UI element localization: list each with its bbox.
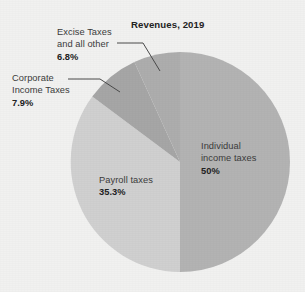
slice-label-excise-line2: and all other bbox=[57, 38, 112, 50]
pie-chart-figure: Revenues, 2019 Excise Taxes and all othe… bbox=[0, 0, 305, 292]
slice-label-individual-line2: income taxes bbox=[201, 152, 256, 164]
slice-label-corporate-line2: Income Taxes bbox=[12, 84, 70, 96]
slice-label-excise: Excise Taxes and all other 6.8% bbox=[57, 26, 112, 63]
slice-label-excise-line1: Excise Taxes bbox=[57, 26, 112, 38]
slice-label-payroll: Payroll taxes 35.3% bbox=[99, 174, 153, 199]
slice-label-corporate: Corporate Income Taxes 7.9% bbox=[12, 72, 70, 109]
slice-value-excise: 6.8% bbox=[57, 51, 112, 63]
slice-label-individual-line1: Individual bbox=[201, 140, 256, 152]
slice-label-payroll-line1: Payroll taxes bbox=[99, 174, 153, 186]
chart-title: Revenues, 2019 bbox=[131, 19, 204, 30]
slice-value-individual: 50% bbox=[201, 165, 256, 177]
slice-value-payroll: 35.3% bbox=[99, 186, 153, 198]
pie-chart-svg bbox=[0, 0, 305, 292]
slice-label-individual: Individual income taxes 50% bbox=[201, 140, 256, 177]
slice-value-corporate: 7.9% bbox=[12, 97, 70, 109]
slice-label-corporate-line1: Corporate bbox=[12, 72, 70, 84]
